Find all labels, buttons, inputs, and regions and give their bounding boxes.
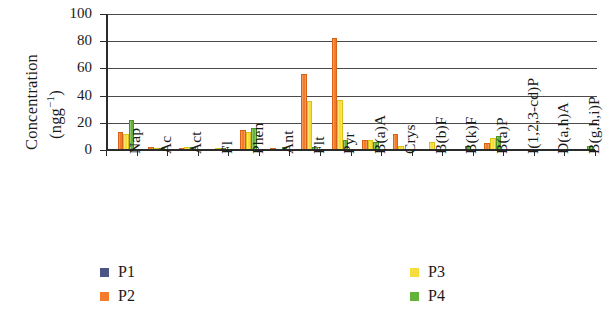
legend-swatch-p1 xyxy=(100,268,109,277)
x-tick-label-B(g,h,i)P: B(g,h,i)P xyxy=(586,96,602,154)
x-tick-label-Crys: Crys xyxy=(402,124,418,154)
legend-item-p1: P1 xyxy=(100,264,135,280)
x-tick-label-B(a)P: B(a)P xyxy=(494,117,510,154)
y-tick-label: 60 xyxy=(56,60,92,75)
legend-label-p3: P3 xyxy=(428,264,445,280)
bar-group xyxy=(200,14,231,150)
x-tick-label-Act: Act xyxy=(188,131,204,154)
bar-chart-figure: Concentration (ngg−1) 020406080100 NapAc… xyxy=(0,0,605,317)
y-tick-label: 40 xyxy=(56,88,92,103)
y-axis-title-line1: Concentration xyxy=(22,54,42,150)
x-tick-label-Flt: Flt xyxy=(311,136,327,154)
x-tick-mark xyxy=(106,150,107,156)
x-tick-label-B(k)F: B(k)F xyxy=(463,116,479,154)
legend-swatch-p2 xyxy=(100,292,109,301)
y-axis-unit-exponent: −1 xyxy=(44,96,56,108)
legend-label-p2: P2 xyxy=(118,288,135,304)
x-tick-label-B(b)F: B(b)F xyxy=(433,116,449,154)
legend-swatch-p3 xyxy=(410,268,419,277)
bar-group xyxy=(322,14,353,150)
legend-item-p3: P3 xyxy=(410,264,445,280)
y-tick-label: 80 xyxy=(56,33,92,48)
bar-group xyxy=(139,14,170,150)
x-tick-label-Ant: Ant xyxy=(280,130,296,154)
x-tick-label-I(1,2,3-cd)P: I(1,2,3-cd)P xyxy=(525,78,541,154)
x-tick-label-Ac: Ac xyxy=(158,136,174,154)
legend-item-p2: P2 xyxy=(100,288,135,304)
y-tick-label: 100 xyxy=(56,6,92,21)
x-tick-label-Nap: Nap xyxy=(127,128,143,154)
legend: P1 P2 P3 P4 xyxy=(100,264,520,312)
legend-label-p1: P1 xyxy=(118,264,135,280)
y-tick-label: 20 xyxy=(56,115,92,130)
y-axis-title: Concentration (ngg−1) xyxy=(0,0,60,160)
x-tick-label-Phen: Phen xyxy=(250,123,266,154)
plot-area xyxy=(106,14,595,150)
legend-item-p4: P4 xyxy=(410,288,445,304)
x-tick-label-B(a)A: B(a)A xyxy=(372,115,388,154)
x-tick-label-Pyr: Pyr xyxy=(341,132,357,154)
bar-group xyxy=(169,14,200,150)
x-tick-label-D(a,h)A: D(a,h)A xyxy=(555,102,571,154)
y-tick-label: 0 xyxy=(56,142,92,157)
legend-swatch-p4 xyxy=(410,292,419,301)
legend-label-p4: P4 xyxy=(428,288,445,304)
x-tick-label-Fl: Fl xyxy=(219,141,235,154)
